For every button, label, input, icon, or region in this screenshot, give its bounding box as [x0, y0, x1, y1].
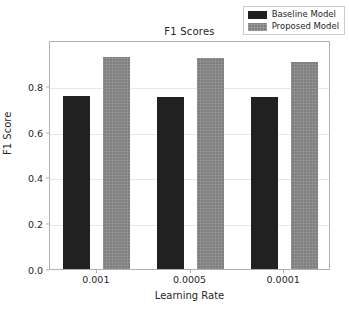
x-tick-mark: [96, 270, 97, 273]
bar-proposed-0.001[interactable]: [103, 57, 130, 270]
y-tick-label: 0.2: [13, 219, 43, 230]
x-tick-label: 0.0005: [173, 274, 206, 285]
bar-baseline-0.0005[interactable]: [157, 97, 184, 269]
x-tick-label: 0.001: [82, 274, 109, 285]
legend-label-baseline: Baseline Model: [272, 10, 336, 19]
legend-swatch-baseline: [248, 11, 267, 19]
bar-baseline-0.0001[interactable]: [251, 97, 278, 269]
chart-figure: F1 Scores Baseline Model Proposed Model …: [0, 0, 349, 317]
bar-proposed-0.0001[interactable]: [291, 62, 318, 269]
plot-inner: [50, 42, 329, 269]
gridline: [50, 134, 329, 135]
bar-baseline-0.001[interactable]: [63, 96, 90, 269]
bar-proposed-0.0005[interactable]: [197, 58, 224, 269]
y-tick-label: 0.0: [13, 265, 43, 276]
chart-legend: Baseline Model Proposed Model: [243, 6, 345, 35]
legend-item-proposed[interactable]: Proposed Model: [248, 22, 339, 31]
legend-swatch-proposed: [248, 23, 267, 31]
x-axis-label: Learning Rate: [49, 290, 330, 301]
x-tick-mark: [283, 270, 284, 273]
x-tick-mark: [190, 270, 191, 273]
y-tick-label: 0.8: [13, 81, 43, 92]
legend-label-proposed: Proposed Model: [272, 22, 339, 31]
x-tick-label: 0.0001: [267, 274, 300, 285]
gridline: [50, 225, 329, 226]
y-tick-label: 0.6: [13, 127, 43, 138]
legend-item-baseline[interactable]: Baseline Model: [248, 10, 339, 19]
y-tick-label: 0.4: [13, 173, 43, 184]
plot-area: [49, 41, 330, 270]
gridline: [50, 179, 329, 180]
y-axis-label: F1 Score: [2, 112, 13, 155]
gridline: [50, 88, 329, 89]
